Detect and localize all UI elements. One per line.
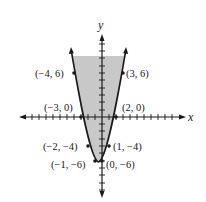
point-neg1-neg6 [93, 159, 97, 163]
label-3-6: (3, 6) [126, 68, 149, 80]
point-2-0 [114, 115, 118, 119]
shaded-top [73, 56, 124, 57]
label-2-0: (2, 0) [122, 102, 145, 114]
inequality-graph: y x (−4, 6) (3, 6) (−3, 0) (2, 0) (−2, −… [0, 0, 206, 202]
label-neg2-neg4: (−2, −4) [43, 141, 78, 153]
y-axis-arrow-down-icon [100, 191, 105, 198]
y-axis-arrow-up-icon [100, 34, 105, 41]
y-axis-label: y [97, 18, 104, 32]
point-neg2-neg4 [86, 144, 90, 148]
label-neg4-6: (−4, 6) [35, 68, 64, 80]
label-neg1-neg6: (−1, −6) [51, 159, 86, 171]
label-0-neg6: (0, −6) [106, 159, 135, 171]
x-axis-label: x [187, 110, 194, 124]
label-1-neg4: (1, −4) [113, 141, 142, 153]
point-0-neg6 [100, 159, 104, 163]
curve-arrow-right-icon [123, 47, 128, 54]
point-neg4-6 [72, 71, 76, 75]
point-3-6 [121, 71, 125, 75]
curve-arrow-left-icon [69, 47, 74, 54]
point-neg3-0 [79, 115, 83, 119]
label-neg3-0: (−3, 0) [44, 102, 73, 114]
x-axis-arrow-left-icon [19, 115, 26, 120]
x-axis-arrow-right-icon [179, 115, 186, 120]
point-1-neg4 [107, 144, 111, 148]
